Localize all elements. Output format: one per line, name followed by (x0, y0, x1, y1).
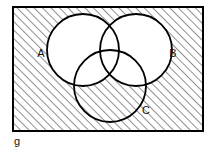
shaded-region-complement-of-a-union-b (13, 7, 203, 131)
universal-set-label: g (14, 135, 20, 147)
set-label-a: A (37, 47, 45, 59)
venn-diagram-canvas: A B C g (0, 0, 216, 151)
set-label-c: C (142, 104, 150, 116)
set-label-b: B (169, 47, 176, 59)
venn-diagram-figure: A B C g (0, 0, 216, 151)
